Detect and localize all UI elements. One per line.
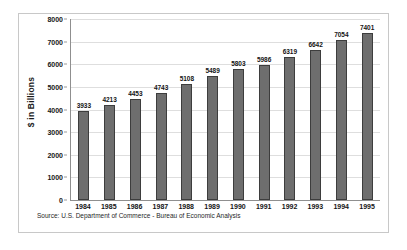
bar-slot[interactable]: 5986 bbox=[251, 19, 277, 200]
y-axis-tick-label: 2000 bbox=[47, 151, 63, 158]
y-axis-tick-mark bbox=[64, 177, 67, 178]
y-axis-tick-mark bbox=[64, 132, 67, 133]
bar-value-label: 7054 bbox=[334, 31, 348, 38]
bar-slot[interactable]: 7401 bbox=[354, 19, 380, 200]
bar-value-label: 4453 bbox=[128, 90, 142, 97]
bar[interactable] bbox=[207, 76, 218, 200]
y-axis-tick-label: 4000 bbox=[47, 106, 63, 113]
bar[interactable] bbox=[336, 40, 347, 200]
bar-value-label: 5108 bbox=[180, 75, 194, 82]
bar-series: 3933421344534743510854895803598663196642… bbox=[71, 19, 380, 200]
y-axis-tick-label: 7000 bbox=[47, 38, 63, 45]
x-axis-tick-label: 1993 bbox=[302, 203, 328, 215]
bar-slot[interactable]: 6319 bbox=[277, 19, 303, 200]
bar-value-label: 5803 bbox=[231, 60, 245, 67]
y-axis-tick-mark bbox=[64, 200, 67, 201]
bar[interactable] bbox=[233, 69, 244, 200]
y-axis-title: $ in Billions bbox=[23, 14, 39, 189]
plot-area: 3933421344534743510854895803598663196642… bbox=[70, 19, 380, 201]
y-axis-tick-label: 5000 bbox=[47, 83, 63, 90]
bar[interactable] bbox=[104, 105, 115, 200]
x-axis-tick-label: 1992 bbox=[277, 203, 303, 215]
bar[interactable] bbox=[310, 50, 321, 200]
y-axis-tick-label: 1000 bbox=[47, 174, 63, 181]
bar-value-label: 6642 bbox=[309, 41, 323, 48]
plot-wrap: 010002000300040005000600070008000 393342… bbox=[41, 19, 380, 201]
y-axis-tick-label: 3000 bbox=[47, 129, 63, 136]
y-axis-tick-label: 6000 bbox=[47, 61, 63, 68]
x-axis-tick-label: 1994 bbox=[328, 203, 354, 215]
y-axis-tick-mark bbox=[64, 86, 67, 87]
bar-value-label: 5986 bbox=[257, 56, 271, 63]
bar-slot[interactable]: 5108 bbox=[174, 19, 200, 200]
bar-slot[interactable]: 4743 bbox=[148, 19, 174, 200]
chart-frame: $ in Billions 01000200030004000500060007… bbox=[18, 13, 389, 233]
bar-slot[interactable]: 5803 bbox=[226, 19, 252, 200]
bar-value-label: 3933 bbox=[77, 102, 91, 109]
bar[interactable] bbox=[130, 99, 141, 200]
source-note: Source: U.S. Department of Commerce - Bu… bbox=[37, 212, 240, 219]
bar-value-label: 6319 bbox=[283, 48, 297, 55]
bar[interactable] bbox=[362, 33, 373, 200]
y-axis-tick-mark bbox=[64, 41, 67, 42]
bar-value-label: 7401 bbox=[360, 24, 374, 31]
bar-value-label: 4743 bbox=[154, 84, 168, 91]
bar[interactable] bbox=[259, 65, 270, 200]
y-axis-tick-label: 0 bbox=[59, 197, 63, 204]
x-axis-tick-label: 1995 bbox=[354, 203, 380, 215]
bar[interactable] bbox=[78, 111, 89, 200]
y-axis-tick-label: 8000 bbox=[47, 16, 63, 23]
y-axis-title-label: $ in Billions bbox=[26, 76, 36, 126]
y-axis-tick-mark bbox=[64, 19, 67, 20]
bar[interactable] bbox=[284, 57, 295, 200]
y-axis-tick-column: 010002000300040005000600070008000 bbox=[41, 19, 67, 201]
bar[interactable] bbox=[156, 93, 167, 200]
bar-value-label: 5489 bbox=[206, 67, 220, 74]
bar-value-label: 4213 bbox=[103, 96, 117, 103]
bar-slot[interactable]: 3933 bbox=[71, 19, 97, 200]
bar-slot[interactable]: 6642 bbox=[303, 19, 329, 200]
bar-slot[interactable]: 4453 bbox=[123, 19, 149, 200]
bar-slot[interactable]: 7054 bbox=[329, 19, 355, 200]
y-axis-tick-mark bbox=[64, 154, 67, 155]
bar[interactable] bbox=[181, 84, 192, 200]
x-axis-tick-label: 1991 bbox=[251, 203, 277, 215]
bar-slot[interactable]: 4213 bbox=[97, 19, 123, 200]
y-axis-tick-mark bbox=[64, 64, 67, 65]
bar-slot[interactable]: 5489 bbox=[200, 19, 226, 200]
y-axis-tick-mark bbox=[64, 109, 67, 110]
